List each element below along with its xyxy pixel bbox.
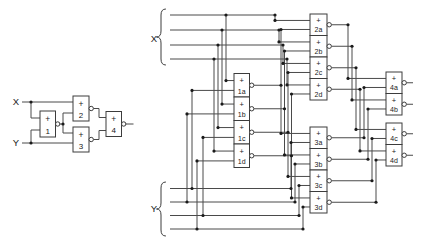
gate-2-label: 2	[79, 111, 84, 120]
gate-3a-output-bubble	[327, 136, 331, 140]
gate-3c-label: 3c	[315, 182, 323, 189]
junction-dot	[297, 184, 300, 187]
gate-3d-output-bubble	[327, 200, 331, 204]
gate-4-label: 4	[112, 126, 117, 135]
junction-dot	[290, 154, 293, 157]
gate-4c-output-bubble	[402, 132, 406, 136]
junction-dot	[216, 43, 219, 46]
junction-dot	[283, 153, 286, 156]
gate-2c-sign: +	[316, 59, 321, 68]
gate-4d-output-bubble	[402, 153, 406, 157]
gate-1-sign: +	[45, 114, 50, 124]
junction-dot	[212, 149, 215, 152]
gate-4b-output-bubble	[402, 102, 406, 106]
junction-dot	[185, 112, 188, 115]
junction-dot	[285, 83, 288, 86]
junction-dot	[286, 131, 289, 134]
x-branch-0	[226, 15, 234, 81]
gate-1a-sign: +	[240, 76, 245, 85]
junction-dot	[283, 49, 286, 52]
gate-4-sign: +	[111, 114, 116, 124]
left-x-to-gate1	[31, 102, 40, 118]
gate-array-figure: +1+2+3+4XY+1a+1b+1c+1d+2a+2b+2c+2d+3a+3b…	[0, 0, 435, 246]
gate-3d-sign: +	[316, 194, 321, 203]
junction-dot	[289, 187, 292, 190]
junction-dot	[220, 28, 223, 31]
junction-dot	[190, 187, 193, 190]
junction-dot	[273, 19, 276, 22]
junction-dot	[354, 66, 357, 69]
g2-to-g4-2	[331, 68, 386, 130]
left-gate1-to-gate2	[63, 113, 73, 124]
junction-dot	[279, 84, 282, 87]
junction-dot	[362, 136, 365, 139]
junction-dot	[201, 136, 204, 139]
junction-dot	[358, 149, 361, 152]
junction-dot	[290, 92, 293, 95]
junction-dot	[350, 45, 353, 48]
gate-3a-sign: +	[316, 129, 321, 138]
gate-4d-sign: +	[392, 147, 397, 156]
gate-3a-label: 3a	[315, 139, 323, 146]
junction-dot	[279, 132, 282, 135]
junction-dot	[297, 214, 300, 217]
junction-dot	[190, 89, 193, 92]
gate-4a-sign: +	[392, 74, 397, 83]
x-line-1	[170, 30, 310, 42]
gate-2a-sign: +	[316, 16, 321, 25]
gate-2c-label: 2c	[315, 69, 323, 76]
junction-dot	[277, 28, 280, 31]
gate-1c-label: 1c	[238, 135, 246, 142]
y-bus-brace	[157, 182, 166, 236]
junction-dot	[354, 128, 357, 131]
junction-dot	[286, 71, 289, 74]
junction-dot	[29, 100, 32, 103]
gate-1a-output-bubble	[250, 83, 254, 87]
gate-1c-sign: +	[240, 123, 245, 132]
junction-dot	[301, 205, 304, 208]
gate-2b-label: 2b	[315, 48, 323, 55]
left-y-input-label: Y	[13, 137, 20, 148]
left-y-to-gate1	[31, 130, 40, 143]
gate-2b-sign: +	[316, 38, 321, 47]
junction-dot	[61, 122, 64, 125]
gate-1-output-bubble	[56, 122, 60, 126]
junction-dot	[285, 57, 288, 60]
junction-dot	[362, 86, 365, 89]
gate-1d-output-bubble	[250, 154, 254, 158]
labels-layer: +1+2+3+4XY+1a+1b+1c+1d+2a+2b+2c+2d+3a+3b…	[13, 16, 398, 214]
gate-2d-output-bubble	[327, 87, 331, 91]
x-line-0	[170, 15, 310, 20]
junction-dot	[220, 102, 223, 105]
y-line-3	[170, 207, 310, 229]
gate-3-label: 3	[79, 142, 84, 151]
gate-2a-label: 2a	[315, 26, 323, 33]
junction-dot	[358, 88, 361, 91]
g2-to-g4-1	[331, 46, 386, 100]
gate-3c-sign: +	[316, 172, 321, 181]
junction-dot	[290, 196, 293, 199]
gate-4b-sign: +	[392, 96, 397, 105]
junction-dot	[281, 43, 284, 46]
junction-dot	[29, 141, 32, 144]
junction-dot	[216, 126, 219, 129]
junction-dot	[301, 227, 304, 230]
gate-4-output-bubble	[122, 122, 126, 126]
junction-dot	[195, 227, 198, 230]
junction-dot	[283, 107, 286, 110]
gate-1c-output-bubble	[250, 130, 254, 134]
junction-dot	[346, 77, 349, 80]
gate-2c-output-bubble	[327, 66, 331, 70]
gate-4c-label: 4c	[390, 135, 398, 142]
gate-2b-output-bubble	[327, 44, 331, 48]
gate-4c-sign: +	[392, 125, 397, 134]
junction-dot	[366, 107, 369, 110]
junction-dot	[277, 40, 280, 43]
y-line-2	[170, 185, 310, 215]
g2-to-g4-3	[331, 89, 386, 151]
junction-dot	[374, 201, 377, 204]
y-branch-0	[192, 90, 234, 188]
gate-1b-label: 1b	[238, 111, 246, 118]
junction-dot	[212, 57, 215, 60]
gate-2-output-bubble	[89, 106, 93, 110]
